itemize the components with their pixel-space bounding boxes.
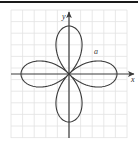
polar-rose-plot: x y a <box>0 0 138 145</box>
y-axis-label: y <box>61 12 66 21</box>
x-axis-label: x <box>130 75 135 84</box>
amplitude-label: a <box>94 47 98 56</box>
rose-curve-figure: x y a <box>0 0 138 145</box>
